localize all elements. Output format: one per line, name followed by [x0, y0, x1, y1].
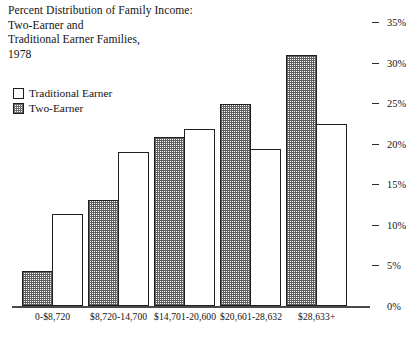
x-tick-label: $8,720-14,700: [90, 311, 147, 322]
x-tick-label: 0-$8,720: [35, 311, 70, 322]
bar-group: [88, 46, 149, 306]
tick-dash-icon: [372, 306, 379, 307]
y-tick-label: 35%: [387, 17, 406, 28]
tick-dash-icon: [372, 22, 379, 23]
bar-two-earner: [154, 137, 185, 306]
x-tick-label: $28,633+: [298, 311, 335, 322]
x-tick-label: $14,701-20,600: [154, 311, 216, 322]
bar-group: [22, 46, 83, 306]
y-tick-label: 20%: [387, 139, 406, 150]
tick-dash-icon: [372, 63, 379, 64]
y-tick-label: 0%: [387, 301, 401, 312]
bar-group: [220, 46, 281, 306]
chart-page: Percent Distribution of Family Income: T…: [0, 0, 418, 337]
y-tick-label: 5%: [387, 260, 401, 271]
y-tick-10: 10%: [372, 219, 406, 231]
y-tick-label: 30%: [387, 58, 406, 69]
bar-traditional-earner: [118, 152, 149, 306]
y-tick-15: 15%: [372, 178, 406, 190]
y-tick-label: 25%: [387, 98, 406, 109]
bar-group: [154, 46, 215, 306]
y-tick-20: 20%: [372, 138, 406, 150]
y-tick-35: 35%: [372, 16, 406, 28]
bar-two-earner: [88, 200, 119, 306]
y-tick-25: 25%: [372, 97, 406, 109]
plot-area: 0-$8,720 $8,720-14,700 $14,701-20,600 $2…: [0, 0, 418, 337]
bar-traditional-earner: [250, 149, 281, 306]
y-tick-label: 10%: [387, 220, 406, 231]
tick-dash-icon: [372, 144, 379, 145]
bar-two-earner: [22, 271, 53, 306]
bar-group: [286, 46, 347, 306]
bar-traditional-earner: [52, 214, 83, 306]
bar-traditional-earner: [184, 129, 215, 306]
tick-dash-icon: [372, 103, 379, 104]
bar-two-earner: [220, 104, 251, 306]
tick-dash-icon: [372, 265, 379, 266]
x-axis-line: [12, 306, 370, 308]
tick-dash-icon: [372, 225, 379, 226]
y-tick-0: 0%: [372, 300, 401, 312]
y-tick-5: 5%: [372, 259, 401, 271]
y-tick-30: 30%: [372, 57, 406, 69]
tick-dash-icon: [372, 184, 379, 185]
bar-traditional-earner: [316, 124, 347, 306]
x-tick-label: $20,601-28,632: [220, 311, 282, 322]
bar-two-earner: [286, 55, 317, 306]
y-tick-label: 15%: [387, 179, 406, 190]
